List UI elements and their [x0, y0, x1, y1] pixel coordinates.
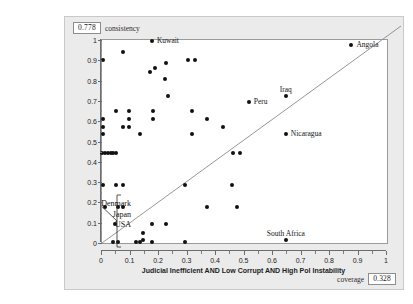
- data-point[interactable]: [230, 183, 234, 187]
- y-tick-minor: [100, 131, 103, 132]
- data-point-label-nicaragua: Nicaragua: [291, 129, 322, 138]
- data-point[interactable]: [164, 222, 168, 226]
- data-point-iraq[interactable]: [284, 94, 288, 98]
- data-point[interactable]: [190, 109, 194, 113]
- data-point-label-iraq: Iraq: [280, 85, 292, 94]
- data-point[interactable]: [231, 151, 235, 155]
- y-tick: [98, 40, 102, 41]
- data-point[interactable]: [114, 151, 118, 155]
- y-tick: [98, 162, 102, 163]
- data-point-south-africa[interactable]: [284, 238, 288, 242]
- y-tick-label: 0.9: [87, 57, 97, 64]
- data-point-label-kuwait: Kuwait: [157, 36, 179, 45]
- annotation-line-japan: Japan: [75, 210, 131, 221]
- data-point[interactable]: [166, 94, 170, 98]
- data-point[interactable]: [183, 183, 187, 187]
- y-tick-minor: [100, 91, 103, 92]
- data-point-label-south-africa: South Africa: [267, 229, 305, 238]
- y-tick: [98, 60, 102, 61]
- y-tick-minor: [100, 50, 103, 51]
- data-point[interactable]: [193, 58, 197, 62]
- y-tick-minor: [100, 172, 103, 173]
- y-tick-minor: [100, 111, 103, 112]
- data-point[interactable]: [150, 240, 154, 244]
- y-tick-label: 0.5: [87, 138, 97, 145]
- y-tick-label: 0.6: [87, 118, 97, 125]
- data-point[interactable]: [163, 77, 167, 81]
- data-point-label-angola: Angola: [356, 40, 378, 49]
- data-point-kuwait[interactable]: [150, 39, 154, 43]
- y-tick-minor: [100, 152, 103, 153]
- x-tick-label: 0: [99, 257, 103, 264]
- plot-frame: KuwaitAngolaPeruIraqNicaraguaSouth Afric…: [101, 39, 388, 244]
- data-point[interactable]: [183, 240, 187, 244]
- x-tick-label: 0.4: [210, 257, 220, 264]
- y-tick: [98, 101, 102, 102]
- data-point-peru[interactable]: [247, 100, 251, 104]
- data-point[interactable]: [238, 151, 242, 155]
- coverage-value[interactable]: 0.328: [368, 273, 396, 285]
- annotation-line-denmark: Denmark: [75, 199, 131, 210]
- coverage-label: coverage: [337, 275, 364, 284]
- x-tick-label: 0.7: [296, 257, 306, 264]
- x-tick-label: 0.9: [353, 257, 363, 264]
- data-point[interactable]: [150, 222, 154, 226]
- y-tick: [98, 142, 102, 143]
- chart-panel: 0.778 consistency coverage 0.328 GDP Ann…: [64, 16, 404, 290]
- y-tick: [98, 182, 102, 183]
- y-tick-label: 1: [93, 37, 97, 44]
- y-tick-label: 0.7: [87, 97, 97, 104]
- data-point-label-peru: Peru: [254, 97, 268, 106]
- y-tick-label: 0.4: [87, 158, 97, 165]
- y-tick: [98, 81, 102, 82]
- x-tick-label: 0.6: [267, 257, 277, 264]
- annotation-line-usa: USA: [75, 220, 131, 231]
- x-tick-label: 0.1: [125, 257, 135, 264]
- y-tick: [98, 121, 102, 122]
- plot-area: KuwaitAngolaPeruIraqNicaraguaSouth Afric…: [102, 40, 387, 243]
- x-axis-title: Judicial Inefficient AND Low Corrupt AND…: [101, 267, 386, 274]
- coverage-field: coverage 0.328: [337, 273, 396, 285]
- x-tick-label: 0.5: [239, 257, 249, 264]
- y-tick-label: 0.3: [87, 179, 97, 186]
- annotation-labels: Denmark Japan USA: [75, 199, 131, 231]
- y-tick-minor: [100, 70, 103, 71]
- y-tick-label: 0.8: [87, 77, 97, 84]
- diagonal-reference-line: [96, 30, 396, 255]
- x-tick-label: 0.8: [324, 257, 334, 264]
- data-point[interactable]: [186, 58, 190, 62]
- x-tick-label: 0.2: [153, 257, 163, 264]
- x-tick-label: 0.3: [182, 257, 192, 264]
- x-tick-label: 1: [384, 257, 388, 264]
